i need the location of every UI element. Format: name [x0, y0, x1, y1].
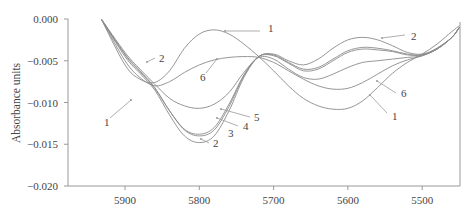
y-tick-label: −0.020: [27, 180, 58, 192]
curve-label: 2: [159, 52, 165, 64]
x-ticks: 59005800570056005500: [114, 186, 434, 206]
curve-4: [101, 19, 459, 134]
curve-label: 1: [268, 22, 274, 34]
arrowhead-icon: [381, 37, 383, 39]
y-ticks: 0.000−0.005−0.010−0.015−0.020: [27, 13, 68, 192]
curve-label: 1: [104, 116, 110, 128]
curve-label: 5: [254, 111, 260, 123]
curve-label: 2: [411, 30, 417, 42]
annotation-leader-arrow: [377, 81, 396, 93]
arrowhead-icon: [216, 58, 218, 60]
arrowhead-icon: [130, 99, 132, 101]
curves: [101, 19, 459, 143]
absorbance-chart: 0.000−0.005−0.010−0.015−0.020 5900580057…: [0, 0, 475, 213]
annotation-leader-arrow: [370, 95, 387, 113]
x-tick-label: 5800: [188, 194, 211, 206]
curve-label: 2: [213, 137, 219, 149]
curve-label: 4: [243, 120, 249, 132]
arrowhead-icon: [376, 80, 378, 82]
arrowhead-icon: [220, 108, 222, 110]
curve-label: 1: [392, 110, 398, 122]
arrowhead-icon: [224, 30, 226, 32]
annotation-leader-arrow: [110, 100, 131, 118]
curve-2: [101, 19, 459, 143]
x-tick-label: 5700: [263, 194, 286, 206]
annotation-leader-arrow: [382, 35, 405, 38]
y-tick-label: 0.000: [33, 13, 58, 25]
arrowhead-icon: [216, 117, 218, 119]
arrowhead-icon: [146, 61, 148, 63]
x-tick-label: 5900: [114, 194, 137, 206]
y-tick-label: −0.010: [27, 97, 58, 109]
arrowhead-icon: [200, 138, 202, 140]
y-axis-title: Absorbance units: [10, 62, 22, 143]
curve-label: 3: [228, 127, 234, 139]
arrowhead-icon: [369, 94, 371, 96]
y-tick-label: −0.005: [27, 55, 58, 67]
curve-label: 6: [200, 71, 206, 83]
x-tick-label: 5600: [337, 194, 360, 206]
axes: [68, 19, 460, 186]
curve-label: 6: [401, 87, 407, 99]
y-tick-label: −0.015: [27, 138, 58, 150]
annotation-leader-arrow: [147, 58, 155, 62]
x-tick-label: 5500: [411, 194, 434, 206]
annotation-leader-arrow: [206, 59, 217, 73]
